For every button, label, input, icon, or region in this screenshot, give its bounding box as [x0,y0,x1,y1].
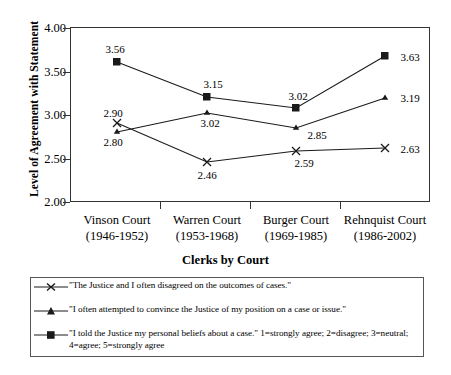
y-tick-label-1: 2.50 [26,153,66,166]
x-tick-mark-3 [340,202,341,209]
legend-label-attempted-to-convince: "I often attempted to convince the Justi… [69,304,346,316]
triangle-icon [33,305,69,317]
y-tick-mark-1 [63,159,70,160]
x-category-burger-line2: (1969-1985) [246,228,346,244]
x-tick-mark-2 [250,202,251,209]
legend-item-told-personal-beliefs: "I told the Justice my personal beliefs … [31,328,425,351]
x-category-warren-line1: Warren Court [173,213,241,227]
x-category-rehnquist-line1: Rehnquist Court [344,213,426,227]
value-label-xcross-0: 2.90 [96,108,130,119]
y-tick-mark-4 [63,28,70,29]
y-tick-label-0: 2.00 [26,196,66,209]
value-label-square-1: 3.15 [196,79,230,90]
legend-label-disagreed-on-outcomes: "The Justice and I often disagreed on th… [69,280,291,292]
value-label-triangle-3: 3.19 [393,93,427,104]
x-cross-icon [33,281,69,293]
chart-page: Level of Agreement with Statement 4.00 3… [0,0,451,375]
x-category-burger: Burger Court (1969-1985) [246,212,346,244]
x-category-rehnquist-line2: (1986-2002) [335,228,435,244]
x-category-vinson: Vinson Court (1946-1952) [67,212,167,244]
legend-item-attempted-to-convince: "I often attempted to convince the Justi… [31,304,425,317]
legend-label-told-personal-beliefs: "I told the Justice my personal beliefs … [69,328,408,351]
legend-label-told-personal-beliefs-line2: 4=agree; 5=strongly agree [69,340,408,352]
x-category-warren: Warren Court (1953-1968) [157,212,257,244]
legend-item-disagreed-on-outcomes: "The Justice and I often disagreed on th… [31,280,425,293]
value-label-triangle-1: 3.02 [193,118,227,129]
y-tick-label-4: 4.00 [26,22,66,35]
legend-label-told-personal-beliefs-line1: "I told the Justice my personal beliefs … [69,328,408,338]
x-category-vinson-line1: Vinson Court [84,213,151,227]
y-tick-mark-2 [63,115,70,116]
x-category-vinson-line2: (1946-1952) [67,228,167,244]
x-axis-title: Clerks by Court [0,253,451,268]
square-icon [33,329,69,341]
value-label-xcross-3: 2.63 [393,144,427,155]
value-label-square-3: 3.63 [393,52,427,63]
x-tick-mark-1 [160,202,161,209]
value-label-triangle-0: 2.80 [96,137,130,148]
x-category-rehnquist: Rehnquist Court (1986-2002) [335,212,435,244]
value-label-xcross-1: 2.46 [190,170,224,181]
legend: "The Justice and I often disagreed on th… [30,277,424,357]
value-label-square-0: 3.56 [98,44,132,55]
x-category-burger-line1: Burger Court [263,213,329,227]
y-tick-label-3: 3.50 [26,66,66,79]
y-tick-label-2: 3.00 [26,109,66,122]
y-tick-mark-3 [63,72,70,73]
value-label-xcross-2: 2.59 [287,158,321,169]
value-label-square-2: 3.02 [281,91,315,102]
value-label-triangle-2: 2.85 [300,130,334,141]
x-category-warren-line2: (1953-1968) [157,228,257,244]
y-tick-mark-0 [63,202,70,203]
